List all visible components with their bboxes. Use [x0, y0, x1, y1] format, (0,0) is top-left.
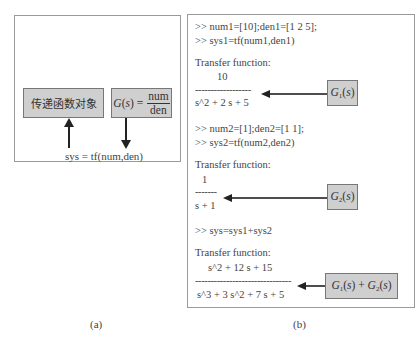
tf2-denominator: s + 1	[195, 200, 216, 211]
arrow-left-icon-1	[261, 89, 327, 99]
tf2-numerator: 1	[202, 174, 207, 185]
tf1-numerator: 10	[217, 71, 228, 82]
tf-command-text: sys = tf(num,den)	[65, 150, 143, 162]
transfer-function-object-label: 传递函数对象	[31, 95, 97, 111]
g1-plus-g2-box: G1(s) + G2(s)	[325, 273, 398, 299]
tf-header-1: Transfer function:	[195, 57, 271, 68]
tf3-numerator: s^2 + 12 s + 15	[208, 262, 272, 273]
g2-box: G2(s)	[327, 184, 358, 210]
g-of-s-lhs: G(s) =	[113, 97, 143, 109]
g-of-s-fraction: num den	[147, 90, 169, 115]
code-line-sys1: >> sys1=tf(num1,den1)	[195, 35, 294, 46]
code-line-num2: >> num2=[1];den2=[1 1];	[195, 123, 304, 134]
code-line-sys-sum: >> sys=sys1+sys2	[195, 225, 272, 236]
tf2-dashes: -------	[195, 186, 217, 197]
up-arrow-head-icon	[64, 118, 74, 127]
fraction-denominator: den	[150, 104, 167, 116]
g1-box: G1(s)	[327, 80, 358, 106]
code-line-sys2: >> sys2=tf(num2,den2)	[195, 137, 294, 148]
tf1-dashes: ------------------	[195, 84, 251, 95]
arrow-left-icon-3	[297, 281, 327, 291]
up-arrow-line	[68, 124, 70, 148]
g1-label: G1(s)	[331, 86, 355, 100]
tf3-denominator: s^3 + 3 s^2 + 7 s + 5	[197, 289, 284, 300]
arrow-left-icon-2	[223, 193, 327, 203]
g-of-s-box: G(s) = num den	[111, 88, 172, 118]
g1-plus-g2-label: G1(s) + G2(s)	[331, 279, 391, 293]
tf1-denominator: s^2 + 2 s + 5	[195, 97, 249, 108]
g2-label: G2(s)	[331, 190, 355, 204]
fraction-numerator: num	[147, 90, 169, 103]
transfer-function-object-box: 传递函数对象	[23, 88, 104, 118]
down-arrow-line	[125, 118, 127, 142]
caption-b: (b)	[293, 318, 306, 330]
tf-header-2: Transfer function:	[195, 159, 271, 170]
tf3-dashes: -------------------------------	[195, 275, 291, 286]
tf-header-3: Transfer function:	[195, 247, 271, 258]
down-arrow-head-icon	[121, 140, 131, 149]
caption-a: (a)	[90, 318, 102, 330]
code-line-num1: >> num1=[10];den1=[1 2 5];	[195, 21, 317, 32]
